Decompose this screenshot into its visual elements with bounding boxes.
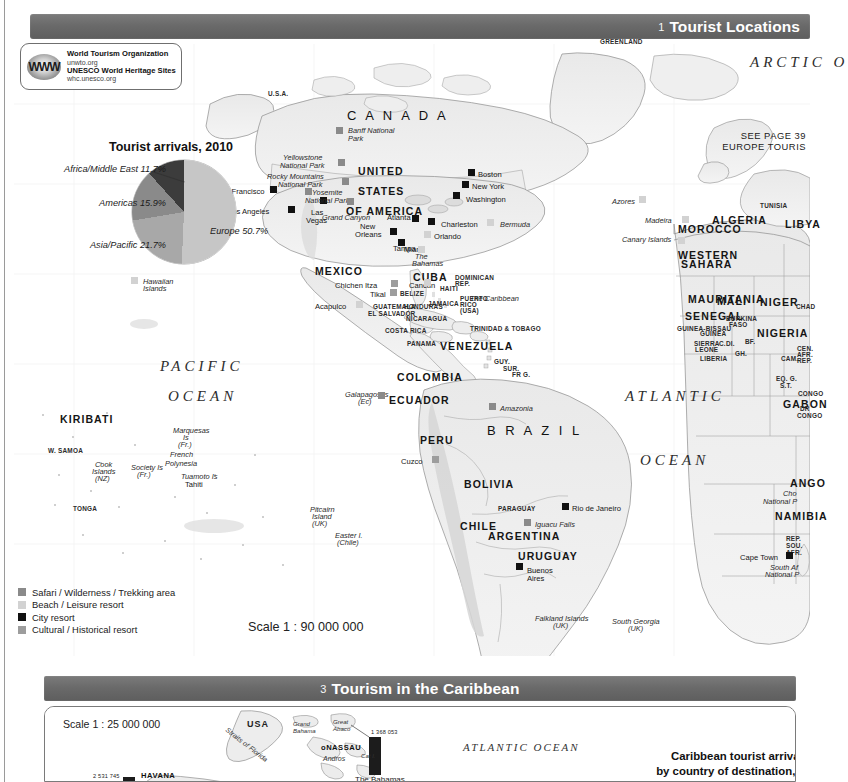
map-country-label: LEONE	[695, 346, 718, 353]
section-header-tourist-locations: 1 Tourist Locations	[30, 14, 810, 39]
map-country-label: NIGER	[760, 296, 799, 308]
legend-label: City resort	[32, 612, 75, 623]
world-map-graphic	[14, 44, 810, 656]
map-site-label: Park	[348, 134, 363, 143]
map-country-label: (USA)	[460, 307, 479, 314]
map-ocean-label: OCEAN	[640, 452, 709, 469]
map-country-label: NICARAGUA	[406, 315, 447, 322]
carib-label-nassau: oNASSAU	[321, 743, 361, 752]
map-symbol-safari	[342, 178, 349, 185]
map-city-label: Tikal	[370, 290, 386, 299]
map-symbol-cult	[391, 280, 398, 287]
map-country-label: BF.	[745, 338, 755, 345]
map-symbol-city	[288, 206, 295, 213]
map-country-label: REP.	[786, 535, 801, 542]
map-city-label: Charleston	[441, 220, 478, 229]
carib-label-andros: Andros	[323, 755, 345, 763]
map-site-label: Canary Islands	[622, 235, 671, 244]
map-legend: Safari / Wilderness / Trekking areaBeach…	[18, 586, 175, 636]
map-country-label: ANGO	[790, 477, 826, 489]
carib-label-havana: HAVANA	[141, 771, 175, 780]
map-country-label: UNITED	[358, 165, 404, 177]
map-country-label: PARAGUAY	[498, 505, 536, 512]
map-site-label: National P	[763, 497, 797, 506]
map-symbol-beach	[424, 231, 431, 238]
map-city-label: Orleans	[355, 230, 382, 239]
map-site-label: Polynesia	[165, 459, 197, 468]
cross-ref-line1: SEE PAGE 39	[706, 130, 806, 141]
map-ocean-label: ARCTIC O	[750, 54, 848, 71]
logo-unesco-name: UNESCO World Heritage Sites	[67, 67, 176, 76]
map-country-label: MAURITANIA	[688, 293, 765, 305]
map-site-label: National Park	[280, 161, 324, 170]
caribbean-chart-title: Caribbean tourist arrivals by country of…	[645, 749, 796, 779]
carib-label-atlantic-ocean: ATLANTIC OCEAN	[463, 741, 580, 753]
map-symbol-cult	[432, 456, 439, 463]
map-country-label: B R A Z I L	[487, 423, 582, 438]
map-city-label: Acapulco	[315, 302, 346, 311]
map-country-label: DR	[800, 405, 810, 412]
map-country-label: GUINEA	[700, 330, 726, 337]
map-city-label: Cancun	[409, 281, 435, 290]
map-country-label: CONGO	[797, 412, 822, 419]
map-symbol-city	[786, 552, 793, 559]
pie-label-europe: Europe 50.7%	[210, 226, 268, 237]
map-country-label: MEXICO	[315, 265, 363, 277]
map-country-label: COLOMBIA	[397, 371, 463, 383]
logo-unesco-url[interactable]: whc.unesco.org	[67, 75, 176, 83]
map-site-label: (Chile)	[337, 538, 359, 547]
map-symbol-safari	[489, 403, 496, 410]
carib-label-usa: USA	[247, 719, 269, 729]
carib-label-cat-island: Cat I.	[361, 753, 376, 760]
caribbean-map-scale: Scale 1 : 25 000 000	[63, 718, 160, 730]
map-site-label: (Fr.)	[137, 470, 151, 479]
map-site-label: Iguacu Falls	[535, 520, 575, 529]
map-symbol-city	[516, 563, 523, 570]
map-symbol-beach	[424, 279, 431, 286]
pie-label-africa-middle-east: Africa/Middle East 11.7%	[38, 164, 166, 175]
map-country-label: TUNISIA	[760, 202, 787, 209]
world-map-panel	[14, 44, 810, 656]
map-symbol-safari	[336, 127, 343, 134]
legend-item: Beach / Leisure resort	[18, 599, 175, 612]
map-country-label: MOROCCO	[678, 223, 742, 235]
map-country-label: PERU	[420, 434, 454, 446]
map-site-label: (NZ)	[95, 474, 110, 483]
map-country-label: C A N A D A	[347, 108, 449, 123]
map-country-label: W. SAMOA	[48, 447, 83, 454]
map-country-label: ECUADOR	[389, 394, 450, 406]
map-country-label: CONGO	[798, 390, 823, 397]
map-country-label: U.S.A.	[268, 90, 288, 97]
map-symbol-safari	[338, 159, 345, 166]
www-globe-icon: WWW	[27, 54, 61, 80]
map-symbol-city	[428, 218, 435, 225]
map-country-label: SAHARA	[681, 258, 733, 270]
map-symbol-city	[412, 215, 419, 222]
map-site-label: Grand Canyon	[322, 213, 370, 222]
legend-item: Cultural / Historical resort	[18, 624, 175, 637]
map-site-label: French	[170, 450, 193, 459]
map-symbol-safari	[524, 519, 531, 526]
map-country-label: BELIZE	[400, 290, 424, 297]
map-ocean-label: ATLANTIC	[625, 388, 725, 405]
map-symbol-city	[562, 503, 569, 510]
logo-text-block: World Tourism Organization unwto.org UNE…	[67, 50, 176, 83]
legend-label: Beach / Leisure resort	[32, 599, 124, 610]
cross-reference-see-page: SEE PAGE 39 EUROPE TOURIS	[706, 130, 806, 152]
map-country-label: S.T.	[780, 382, 792, 389]
map-country-label: LIBERIA	[700, 355, 727, 362]
carib-bar-label-bahamas: The Bahamas	[355, 775, 405, 782]
map-city-label: Atlanta	[387, 213, 411, 222]
map-symbol-beach	[487, 219, 494, 226]
tourist-arrivals-pie-chart: Tourist arrivals, 2010 Africa/Middle Eas…	[24, 140, 274, 290]
map-site-label: Bahamas	[412, 259, 443, 268]
legend-swatch-icon	[18, 601, 26, 609]
map-site-label: (UK)	[312, 519, 327, 528]
map-site-label: Azores	[612, 197, 635, 206]
map-site-label: Tuamoto Is	[181, 472, 217, 481]
map-site-label: The Caribbean	[470, 294, 519, 303]
map-site-label: National P	[765, 570, 799, 579]
logo-org-name: World Tourism Organization	[67, 50, 176, 59]
map-country-label: JAMAICA	[428, 300, 459, 307]
